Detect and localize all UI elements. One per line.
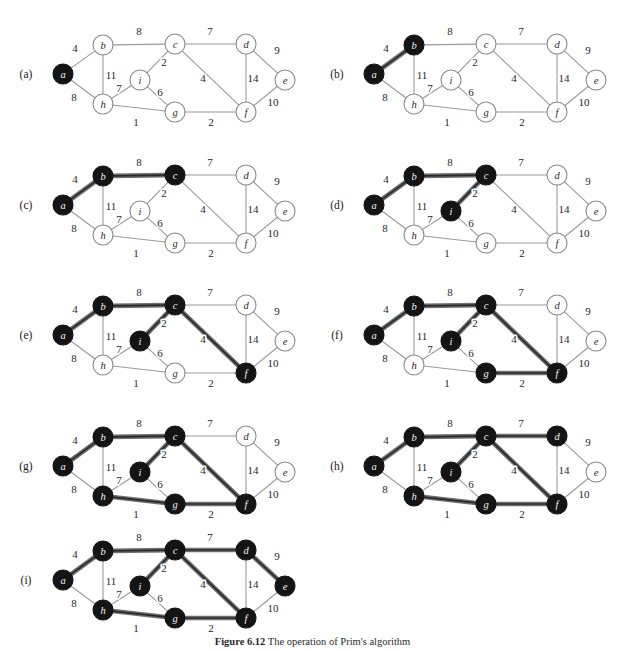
node-g[interactable]: g <box>165 102 185 122</box>
node-a[interactable]: a <box>364 195 384 215</box>
node-h[interactable]: h <box>93 94 113 114</box>
node-label-e: e <box>594 467 599 478</box>
node-f[interactable]: f <box>236 363 256 383</box>
node-b[interactable]: b <box>93 296 113 316</box>
node-f[interactable]: f <box>547 363 567 383</box>
edge-weight-g-f: 2 <box>519 116 525 128</box>
node-b[interactable]: b <box>93 166 113 186</box>
node-e[interactable]: e <box>586 462 606 482</box>
node-f[interactable]: f <box>236 608 256 628</box>
node-d[interactable]: d <box>547 295 567 315</box>
edge-weight-a-h: 8 <box>382 352 388 364</box>
node-e[interactable]: e <box>275 462 295 482</box>
node-d[interactable]: d <box>236 34 256 54</box>
node-e[interactable]: e <box>586 331 606 351</box>
node-d[interactable]: d <box>547 426 567 446</box>
node-i[interactable]: i <box>130 462 150 482</box>
node-f[interactable]: f <box>547 102 567 122</box>
node-label-h: h <box>100 491 105 502</box>
node-g[interactable]: g <box>476 233 496 253</box>
edge-weight-c-i: 2 <box>161 562 167 574</box>
node-d[interactable]: d <box>236 295 256 315</box>
node-g[interactable]: g <box>165 233 185 253</box>
edge-weight-c-i: 2 <box>472 187 478 199</box>
node-f[interactable]: f <box>547 494 567 514</box>
node-b[interactable]: b <box>93 541 113 561</box>
node-d[interactable]: d <box>236 426 256 446</box>
node-a[interactable]: a <box>53 570 73 590</box>
node-c[interactable]: c <box>165 34 185 54</box>
node-g[interactable]: g <box>476 494 496 514</box>
edge-weight-a-b: 4 <box>72 173 78 185</box>
node-g[interactable]: g <box>165 608 185 628</box>
node-i[interactable]: i <box>441 70 461 90</box>
tree-edge-core-b-c <box>110 305 167 306</box>
node-b[interactable]: b <box>404 166 424 186</box>
node-e[interactable]: e <box>275 70 295 90</box>
node-b[interactable]: b <box>93 35 113 55</box>
node-label-a: a <box>60 575 65 586</box>
node-h[interactable]: h <box>93 225 113 245</box>
node-c[interactable]: c <box>476 34 496 54</box>
edge-weight-a-h: 8 <box>71 91 77 103</box>
node-e[interactable]: e <box>275 331 295 351</box>
edge-weight-h-i: 7 <box>116 474 122 486</box>
node-g[interactable]: g <box>476 102 496 122</box>
edge-weight-i-g: 6 <box>468 217 474 229</box>
node-i[interactable]: i <box>130 201 150 221</box>
node-f[interactable]: f <box>236 494 256 514</box>
node-h[interactable]: h <box>404 225 424 245</box>
node-c[interactable]: c <box>476 426 496 446</box>
node-a[interactable]: a <box>53 456 73 476</box>
node-d[interactable]: d <box>547 165 567 185</box>
node-f[interactable]: f <box>547 233 567 253</box>
node-a[interactable]: a <box>364 64 384 84</box>
node-label-b: b <box>100 301 105 312</box>
node-a[interactable]: a <box>53 325 73 345</box>
node-d[interactable]: d <box>236 540 256 560</box>
node-a[interactable]: a <box>364 325 384 345</box>
node-c[interactable]: c <box>476 165 496 185</box>
node-f[interactable]: f <box>236 102 256 122</box>
node-label-c: c <box>173 300 178 311</box>
node-b[interactable]: b <box>93 427 113 447</box>
node-i[interactable]: i <box>130 576 150 596</box>
node-h[interactable]: h <box>404 94 424 114</box>
node-i[interactable]: i <box>130 331 150 351</box>
node-i[interactable]: i <box>441 331 461 351</box>
node-a[interactable]: a <box>53 64 73 84</box>
node-h[interactable]: h <box>93 486 113 506</box>
node-e[interactable]: e <box>586 201 606 221</box>
node-h[interactable]: h <box>404 355 424 375</box>
node-a[interactable]: a <box>364 456 384 476</box>
node-d[interactable]: d <box>236 165 256 185</box>
node-h[interactable]: h <box>93 355 113 375</box>
edge-weight-h-i: 7 <box>427 213 433 225</box>
node-h[interactable]: h <box>404 486 424 506</box>
node-i[interactable]: i <box>441 462 461 482</box>
node-c[interactable]: c <box>165 295 185 315</box>
node-c[interactable]: c <box>165 165 185 185</box>
node-i[interactable]: i <box>130 70 150 90</box>
edge-weight-b-c: 8 <box>447 25 453 37</box>
node-e[interactable]: e <box>586 70 606 90</box>
node-e[interactable]: e <box>275 576 295 596</box>
node-b[interactable]: b <box>404 296 424 316</box>
edge-weight-c-d: 7 <box>207 417 213 429</box>
node-label-e: e <box>594 75 599 86</box>
edge-weight-c-f: 4 <box>511 203 517 215</box>
node-d[interactable]: d <box>547 34 567 54</box>
node-c[interactable]: c <box>476 295 496 315</box>
node-i[interactable]: i <box>441 201 461 221</box>
node-g[interactable]: g <box>165 494 185 514</box>
node-f[interactable]: f <box>236 233 256 253</box>
node-g[interactable]: g <box>165 363 185 383</box>
node-h[interactable]: h <box>93 600 113 620</box>
node-g[interactable]: g <box>476 363 496 383</box>
node-c[interactable]: c <box>165 426 185 446</box>
node-a[interactable]: a <box>53 195 73 215</box>
node-b[interactable]: b <box>404 35 424 55</box>
node-e[interactable]: e <box>275 201 295 221</box>
node-c[interactable]: c <box>165 540 185 560</box>
node-b[interactable]: b <box>404 427 424 447</box>
